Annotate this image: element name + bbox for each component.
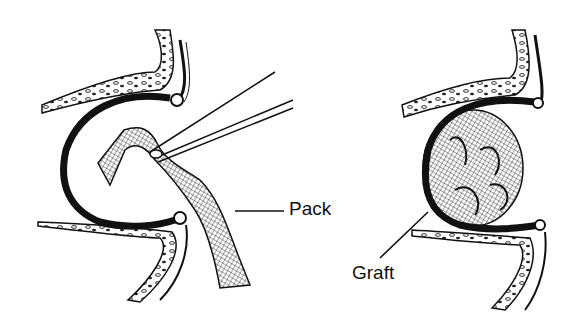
suture-icon	[171, 94, 183, 106]
suture-icon	[533, 98, 543, 108]
forceps-icon	[150, 72, 293, 162]
suture-icon	[174, 212, 186, 224]
lower-bone-icon	[412, 230, 533, 310]
upper-bone-icon	[42, 30, 173, 113]
pack-strip	[98, 128, 250, 288]
left-panel	[38, 30, 293, 302]
suture-icon	[535, 220, 545, 230]
illustration	[0, 0, 581, 331]
pack-label: Pack	[289, 198, 331, 220]
graft-label: Graft	[352, 262, 394, 284]
right-panel	[380, 30, 546, 310]
upper-bone-icon	[402, 30, 529, 117]
lower-bone-icon	[38, 222, 176, 302]
